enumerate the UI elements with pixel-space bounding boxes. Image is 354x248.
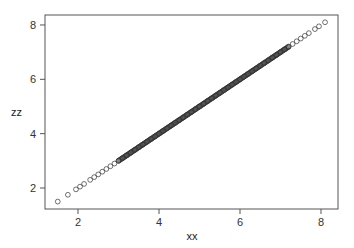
y-tick-label: 6 [30, 73, 36, 85]
data-point [317, 24, 322, 29]
x-axis-title: xx [187, 230, 199, 242]
y-axis: 2468 [30, 19, 45, 194]
y-tick-label: 2 [30, 182, 36, 194]
data-point [82, 182, 87, 187]
x-tick-label: 6 [237, 216, 243, 228]
x-tick-label: 4 [156, 216, 162, 228]
scatter-plot: 2468 2468 xx zz [0, 0, 354, 248]
y-tick-label: 8 [30, 19, 36, 31]
plot-frame [45, 15, 338, 209]
data-points [55, 20, 327, 204]
data-point [65, 192, 70, 197]
data-point [306, 31, 311, 36]
x-tick-label: 2 [75, 216, 81, 228]
y-axis-title: zz [11, 106, 22, 118]
x-tick-label: 8 [318, 216, 324, 228]
y-tick-label: 4 [30, 128, 36, 140]
data-point [323, 20, 328, 25]
x-axis: 2468 [75, 209, 324, 228]
data-point [55, 199, 60, 204]
